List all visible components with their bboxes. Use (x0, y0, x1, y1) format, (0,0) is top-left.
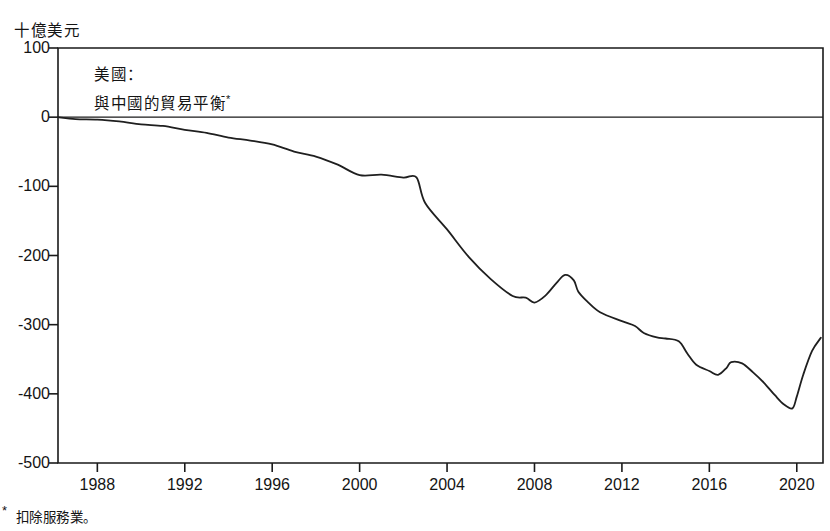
y-tick-label: -300 (2, 316, 50, 334)
y-tick-label: -400 (2, 385, 50, 403)
x-tick-label: 1996 (237, 476, 307, 494)
y-tick-label: 0 (2, 108, 50, 126)
y-tick-label: -500 (2, 454, 50, 472)
x-tick-label: 2016 (674, 476, 744, 494)
y-tick-label: -100 (2, 177, 50, 195)
chart-title-line-2: 與中國的貿易平衡* (94, 87, 231, 116)
chart-title-superscript: * (226, 93, 231, 105)
chart-title-block: 美國： 與中國的貿易平衡* (94, 62, 231, 116)
x-tick-label: 1992 (150, 476, 220, 494)
footnote-text: 扣除服務業。 (16, 506, 96, 526)
x-tick-label: 1988 (62, 476, 132, 494)
chart-title-line-1: 美國： (94, 62, 231, 87)
x-tick-label: 2004 (412, 476, 482, 494)
series-line (58, 117, 821, 408)
y-tick-label: 100 (2, 39, 50, 57)
x-tick-label: 2020 (762, 476, 830, 494)
x-tick-label: 2000 (325, 476, 395, 494)
x-tick-label: 2008 (499, 476, 569, 494)
y-tick-label: -200 (2, 247, 50, 265)
footnote-asterisk: * (2, 503, 7, 518)
chart-title-line-2-text: 與中國的貿易平衡 (94, 95, 226, 112)
chart-figure: 十億美元 美國： 與中國的貿易平衡* 1000-100-200-300-400-… (0, 0, 830, 531)
x-tick-label: 2012 (587, 476, 657, 494)
y-axis-unit-label: 十億美元 (14, 18, 80, 40)
data-series-group (58, 117, 821, 408)
